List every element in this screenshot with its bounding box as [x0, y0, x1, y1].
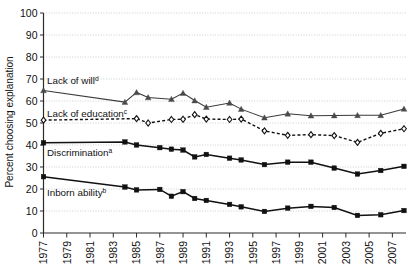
- y-tick-label: 30: [26, 161, 38, 173]
- data-point-marker: [238, 106, 244, 111]
- data-point-marker: [192, 98, 198, 103]
- series-label-lack-of-education: Lack of educationc: [47, 108, 128, 119]
- data-point-marker: [134, 143, 139, 148]
- data-point-marker: [157, 187, 162, 192]
- data-point-marker: [41, 141, 46, 146]
- x-tick-label: 1983: [107, 241, 119, 265]
- line-chart: 0102030405060708090100 19771979198119831…: [0, 0, 419, 271]
- x-tick-label: 1997: [270, 241, 282, 265]
- data-point-marker: [262, 209, 267, 214]
- data-point-marker: [402, 126, 407, 132]
- axes-group: [44, 13, 407, 233]
- data-point-marker: [262, 128, 267, 134]
- data-point-marker: [227, 116, 232, 122]
- data-point-marker: [123, 185, 128, 190]
- y-axis-label: Percent choosing explanation: [4, 56, 15, 187]
- data-point-marker: [192, 196, 197, 201]
- x-tick-label: 1979: [61, 241, 73, 265]
- data-point-marker: [41, 174, 46, 179]
- y-tick-label: 80: [26, 51, 38, 63]
- data-point-marker: [239, 205, 244, 210]
- data-point-marker: [134, 90, 140, 95]
- x-tick-label: 2001: [316, 241, 328, 265]
- data-point-marker: [41, 117, 46, 123]
- data-point-marker: [378, 130, 383, 136]
- inline-series-labels-group: Lack of willdLack of educationcDiscrimin…: [47, 75, 128, 198]
- y-tick-label: 100: [20, 7, 38, 19]
- data-point-marker: [169, 194, 174, 199]
- x-tick-label: 1985: [130, 241, 142, 265]
- data-point-marker: [378, 212, 383, 217]
- data-point-marker: [378, 168, 383, 173]
- data-point-marker: [181, 148, 186, 153]
- data-point-marker: [239, 158, 244, 163]
- data-point-marker: [402, 164, 407, 169]
- y-tick-label: 10: [26, 205, 38, 217]
- series-label-inborn-ability: Inborn abilityb: [47, 187, 107, 198]
- data-point-marker: [169, 147, 174, 152]
- data-point-marker: [285, 206, 290, 211]
- y-tick-label: 40: [26, 139, 38, 151]
- data-point-marker: [181, 189, 186, 194]
- data-point-marker: [169, 116, 174, 122]
- data-point-marker: [192, 155, 197, 160]
- data-point-marker: [402, 208, 407, 213]
- data-point-marker: [401, 106, 407, 111]
- data-point-marker: [332, 166, 337, 171]
- data-point-marker: [227, 156, 232, 161]
- data-point-marker: [134, 116, 139, 122]
- data-point-marker: [180, 90, 186, 95]
- series-label-superscript: d: [95, 75, 99, 82]
- data-point-marker: [123, 140, 128, 145]
- data-point-marker: [134, 188, 139, 193]
- data-point-marker: [227, 202, 232, 207]
- data-point-marker: [309, 132, 314, 138]
- series-label-superscript: b: [103, 187, 107, 194]
- data-point-marker: [332, 205, 337, 210]
- x-tick-label: 1981: [84, 241, 96, 265]
- series-label-discrimination: Discriminationa: [47, 147, 113, 158]
- x-tick-label: 1999: [293, 241, 305, 265]
- data-point-marker: [192, 112, 197, 118]
- x-tick-label: 2003: [340, 241, 352, 265]
- x-tick-label: 1995: [247, 241, 259, 265]
- data-point-marker: [204, 198, 209, 203]
- y-tick-label: 50: [26, 117, 38, 129]
- y-tick-label: 20: [26, 183, 38, 195]
- data-point-marker: [146, 120, 151, 126]
- x-tick-label: 2005: [363, 241, 375, 265]
- data-point-marker: [285, 160, 290, 165]
- data-point-marker: [204, 116, 209, 122]
- data-point-marker: [239, 116, 244, 122]
- series-label-superscript: c: [124, 108, 128, 115]
- x-tick-label: 1987: [154, 241, 166, 265]
- x-tick-label: 1991: [200, 241, 212, 265]
- x-tick-label: 1977: [37, 241, 49, 265]
- data-point-marker: [355, 172, 360, 177]
- data-point-marker: [262, 162, 267, 167]
- y-tick-label: 0: [32, 227, 38, 239]
- x-tick-label: 2007: [386, 241, 398, 265]
- series-label-superscript: a: [109, 147, 113, 154]
- data-point-marker: [309, 204, 314, 209]
- data-point-marker: [332, 133, 337, 139]
- y-tick-label: 90: [26, 29, 38, 41]
- data-point-marker: [285, 132, 290, 138]
- series-label-lack-of-will: Lack of willd: [47, 75, 99, 86]
- data-point-marker: [181, 116, 186, 122]
- y-tick-label: 70: [26, 73, 38, 85]
- data-point-marker: [41, 88, 47, 93]
- x-tick-labels-group: 1977197919811983198519871989199119931995…: [37, 233, 398, 264]
- axis-lines: [44, 13, 407, 233]
- data-point-marker: [355, 139, 360, 145]
- x-tick-label: 1993: [223, 241, 235, 265]
- chart-container: 0102030405060708090100 19771979198119831…: [0, 0, 419, 271]
- data-point-marker: [309, 160, 314, 165]
- data-point-marker: [204, 152, 209, 157]
- data-point-marker: [355, 213, 360, 218]
- x-tick-label: 1989: [177, 241, 189, 265]
- y-tick-labels-group: 0102030405060708090100: [20, 7, 44, 239]
- data-point-marker: [157, 145, 162, 150]
- y-tick-label: 60: [26, 95, 38, 107]
